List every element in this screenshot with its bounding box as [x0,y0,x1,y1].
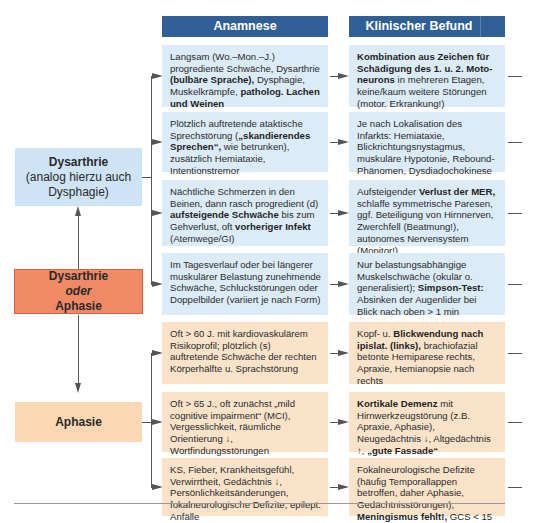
central-line-1: Dysarthrie [49,269,108,284]
arrow-right-icon [338,139,349,145]
befund-text: Kortikale Demenz [357,398,438,409]
dysarthrie-oder-aphasie-box: Dysarthrie oder Aphasie [14,269,143,314]
header-klinischer-befund: Klinischer Befund [349,16,505,37]
header-divider [480,16,481,37]
connector-to-befund [330,76,338,77]
befund-cell: Je nach Lokalisation des Infarkts: Hemia… [349,112,505,172]
aphasie-title: Aphasie [55,415,102,430]
befund-cell: Fokalneurologische Defizite (häufig Temp… [349,458,505,516]
arrow-up-icon [75,206,81,216]
connector-to-befund [330,213,338,214]
connector-to-befund [330,487,338,488]
bottom-rule [14,503,505,504]
dysarthrie-subtitle-1: (analog hierzu auch [26,170,131,185]
anamnese-text: (Atemwege/GI) [170,233,235,244]
anamnese-text: KS, Fieber, Krankheitsgefühl, Verwirrthe… [170,464,321,522]
arrow-right-icon [338,484,349,490]
befund-cell: Kortikale Demenz mit Hirnwerkzeug­störun… [349,392,505,452]
anamnese-text: auf­steigende Schwäche [170,209,279,220]
anamnese-cell: Nächtliche Schmerzen in den Beinen, dann… [162,180,328,246]
anamnese-cell: Oft > 60 J. mit kardiovaskulärem Risikop… [162,322,328,384]
header-befund-label: Klinischer Befund [366,19,473,33]
anamnese-cell: Langsam (Wo.–Mon.–J.) progrediente Schwä… [162,45,328,107]
central-line-3: Aphasie [55,299,102,314]
arrow-right-icon [338,350,349,356]
befund-cell: Aufsteigender Verlust der MER, schlaffe … [349,180,505,246]
anamnese-text: Oft > 65 J., oft zunächst „mild cognitiv… [170,398,295,456]
anamnese-text: Oft > 60 J. mit kardiovaskulärem Risikop… [170,328,317,374]
arrow-right-icon [338,210,349,216]
connector-to-befund [330,284,338,285]
befund-text: Verlust der MER, [419,186,495,197]
befund-cell: Kopf- u. Blickwendung nach ipislat. (lin… [349,322,505,384]
befund-text: Je nach Lokalisation des Infarkts: Hemia… [357,118,495,176]
befund-text: Kopf- u. [357,328,393,339]
aphasie-box: Aphasie [15,402,142,442]
central-line-2: oder [65,284,91,299]
arrow-right-icon [338,419,349,425]
anamnese-cell: KS, Fieber, Krankheitsgefühl, Verwirrthe… [162,458,328,516]
connector-center-down [78,315,79,383]
anamnese-text: Nächtliche Schmerzen in den Beinen, dann… [170,186,318,209]
anamnese-text: Im Tagesverlauf oder bei längerer muskul… [170,259,321,305]
anamnese-cell: Plötzlich auftretende ataktische Sprechs… [162,112,328,172]
next-column-clipped [506,0,543,515]
befund-text: Aufsteigender [357,186,419,197]
befund-cell: Kombination aus Zeichen für Schädigung d… [349,45,505,107]
anamnese-cell: Oft > 65 J., oft zunächst „mild cognitiv… [162,392,328,452]
connector-center-up [78,216,79,269]
arrow-right-icon [338,281,349,287]
anamnese-text: (bulbäre Sprache), [170,74,254,85]
connector-to-befund [330,353,338,354]
dysarthrie-title: Dysarthrie [49,155,108,170]
connector-to-befund [330,422,338,423]
dysarthrie-box: Dysarthrie (analog hierzu auch Dysphagie… [15,148,142,206]
header-anamnese-label: Anamnese [213,19,276,33]
anamnese-cell: Im Tagesverlauf oder bei längerer muskul… [162,253,328,315]
befund-text: Absinken der Augen­lider bei Blick nach … [357,294,476,317]
arrow-right-icon [338,73,349,79]
dysarthrie-subtitle-2: Dysphagie) [48,185,109,200]
anamnese-text: vorheriger Infekt [235,221,311,232]
header-anamnese: Anamnese [162,16,328,37]
connector-to-befund [330,142,338,143]
befund-text: GCS < 15 [447,511,492,522]
anamnese-text: Langsam (Wo.–Mon.–J.) progrediente Schwä… [170,51,320,74]
connector-dysarthrie-trunk [151,76,152,285]
befund-text: Meningismus fehlt!, [357,511,447,522]
befund-text: schlaffe symmetrische Paresen, ggf. Bete… [357,198,494,256]
befund-text: „gute Fassade“ [367,445,438,456]
befund-cell: Nur belastungsabhängige Muskel­schwäche … [349,253,505,315]
befund-text: Simpson-Test: [418,282,484,293]
arrow-down-icon [75,383,81,393]
